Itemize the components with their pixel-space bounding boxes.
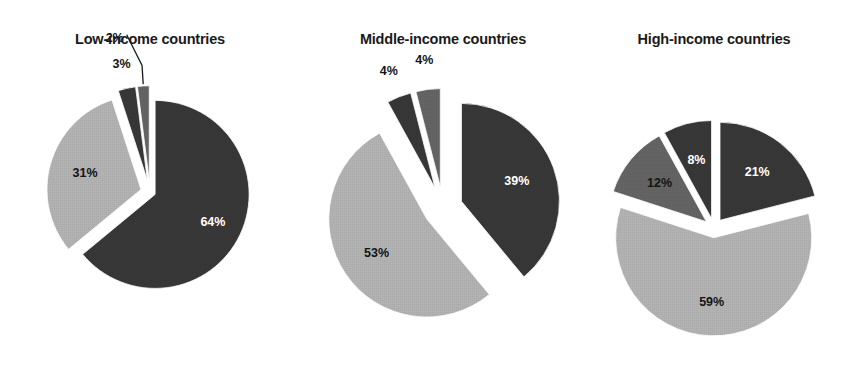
slice-label-4pct: 4% bbox=[380, 64, 398, 78]
chart-title-2: Middle-income countries bbox=[360, 31, 526, 47]
slice-label-53pct: 53% bbox=[364, 246, 389, 260]
slice-label-64pct: 64% bbox=[200, 215, 225, 229]
slice-label-21pct: 21% bbox=[745, 165, 770, 179]
slice-label-59pct: 59% bbox=[699, 295, 724, 309]
slice-label-4pct: 4% bbox=[415, 53, 433, 67]
chart-title-3: High-income countries bbox=[638, 31, 791, 47]
chart-title-1: Low-income countries bbox=[75, 31, 225, 47]
slice-label-8pct: 8% bbox=[687, 153, 705, 167]
slice-label-3pct: 3% bbox=[112, 57, 130, 71]
slice-label-39pct: 39% bbox=[504, 174, 529, 188]
slice-label-12pct: 12% bbox=[647, 176, 672, 190]
pie-chart-figure: 64%31%3%2%Low-income countries39%53%4%4%… bbox=[0, 0, 855, 370]
slice-label-31pct: 31% bbox=[72, 166, 97, 180]
